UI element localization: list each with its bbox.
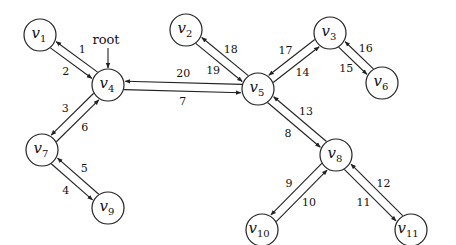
- edge-label: 16: [359, 42, 373, 55]
- edge-label: 4: [62, 184, 69, 197]
- edge-label: 11: [357, 196, 371, 209]
- node-v5: v5: [242, 73, 274, 105]
- edge-label: 3: [62, 102, 69, 115]
- edge-arrow-13: [274, 97, 327, 142]
- edge-label: 8: [284, 127, 291, 140]
- node-v4: v4: [92, 69, 124, 101]
- root-label: root: [92, 32, 120, 47]
- edge-label: 10: [302, 196, 316, 209]
- edge-label: 13: [299, 105, 313, 118]
- edge-label: 2: [62, 65, 69, 78]
- node-v9: v9: [92, 192, 124, 224]
- edge-label: 9: [286, 177, 293, 190]
- edge-labels-layer: 1234567891011121314151617181920: [62, 42, 391, 209]
- edge-label: 14: [296, 66, 310, 79]
- edge-label: 7: [179, 95, 186, 108]
- edge-label: 5: [81, 162, 88, 175]
- node-v6: v6: [366, 67, 398, 99]
- node-v10: v10: [246, 214, 278, 245]
- node-v7: v7: [26, 134, 58, 166]
- edge-label: 20: [176, 67, 190, 80]
- node-v2: v2: [170, 14, 202, 46]
- euler-tour-diagram: root 1234567891011121314151617181920 v1v…: [0, 0, 456, 245]
- node-v8: v8: [320, 139, 352, 171]
- edge-label: 15: [339, 62, 353, 75]
- node-v3: v3: [314, 17, 346, 49]
- edge-arrow-20: [125, 81, 242, 84]
- edge-label: 12: [376, 177, 390, 190]
- edge-label: 6: [81, 121, 88, 134]
- edge-label: 17: [278, 44, 292, 57]
- node-v1: v1: [24, 19, 56, 51]
- edge-label: 19: [206, 64, 220, 77]
- edge-label: 1: [79, 43, 86, 56]
- node-v11: v11: [395, 214, 427, 245]
- edge-label: 18: [224, 43, 238, 56]
- edge-arrow-7: [124, 90, 241, 93]
- root-pointer: root: [92, 32, 120, 68]
